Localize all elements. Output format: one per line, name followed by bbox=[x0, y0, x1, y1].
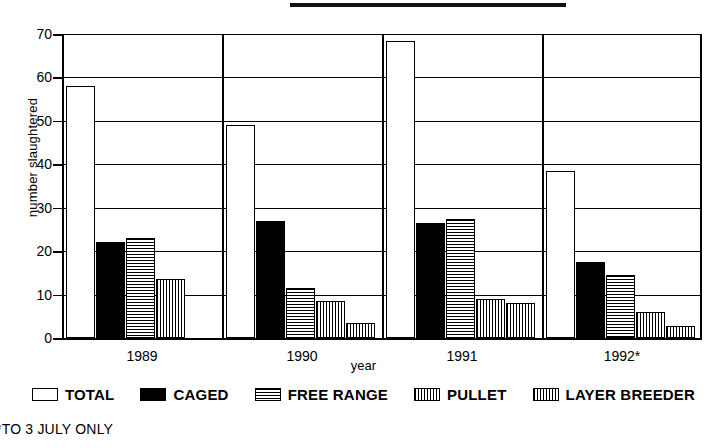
bar-layer-breeder-1992 bbox=[666, 326, 695, 338]
y-tick-label: 10 bbox=[6, 288, 52, 302]
legend-item-layer-breeder[interactable]: LAYER BREEDER bbox=[533, 386, 696, 403]
x-tick-label: 1990 bbox=[232, 348, 372, 364]
y-tick-mark bbox=[53, 34, 62, 36]
y-tick-label: 70 bbox=[6, 27, 52, 41]
group-separator bbox=[382, 34, 384, 340]
legend-item-free-range[interactable]: FREE RANGE bbox=[255, 386, 388, 403]
y-tick-label: 60 bbox=[6, 70, 52, 84]
bar-total-1992 bbox=[546, 171, 575, 338]
bar-caged-1990 bbox=[256, 221, 285, 338]
y-tick-mark bbox=[53, 77, 62, 79]
legend-label: CAGED bbox=[173, 386, 228, 403]
y-tick-label: 0 bbox=[6, 331, 52, 345]
legend-item-caged[interactable]: CAGED bbox=[140, 386, 228, 403]
y-tick-mark bbox=[53, 164, 62, 166]
legend-swatch-icon bbox=[140, 388, 166, 401]
bar-caged-1992 bbox=[576, 262, 605, 338]
legend-label: LAYER BREEDER bbox=[566, 386, 696, 403]
group-separator bbox=[222, 34, 224, 340]
bar-pullet-1992 bbox=[636, 312, 665, 338]
bar-caged-1989 bbox=[96, 242, 125, 338]
x-tick-label: 1991 bbox=[392, 348, 532, 364]
bar-layer-breeder-1990 bbox=[346, 323, 375, 338]
bar-free-range-1990 bbox=[286, 288, 315, 338]
y-tick-mark bbox=[53, 208, 62, 210]
legend-item-pullet[interactable]: PULLET bbox=[414, 386, 507, 403]
bar-pullet-1989 bbox=[156, 279, 185, 338]
legend-label: TOTAL bbox=[65, 386, 115, 403]
legend-swatch-icon bbox=[533, 388, 559, 401]
bar-pullet-1991 bbox=[476, 299, 505, 338]
bar-layer-breeder-1991 bbox=[506, 303, 535, 338]
footnote: *TO 3 JULY ONLY bbox=[0, 421, 113, 437]
x-tick-label: 1989 bbox=[72, 348, 212, 364]
legend-label: FREE RANGE bbox=[288, 386, 388, 403]
legend-label: PULLET bbox=[447, 386, 507, 403]
bar-free-range-1991 bbox=[446, 219, 475, 338]
x-tick-label: 1992* bbox=[552, 348, 692, 364]
y-tick-label: 20 bbox=[6, 244, 52, 258]
bar-total-1991 bbox=[386, 41, 415, 338]
bar-free-range-1992 bbox=[606, 275, 635, 338]
chart-root: number slaughtered 010203040506070 year … bbox=[0, 0, 727, 448]
group-separator bbox=[542, 34, 544, 340]
legend-swatch-icon bbox=[414, 388, 440, 401]
legend-item-total[interactable]: TOTAL bbox=[32, 386, 115, 403]
legend-swatch-icon bbox=[32, 388, 58, 401]
bar-pullet-1990 bbox=[316, 301, 345, 338]
title-underline bbox=[290, 3, 566, 7]
y-tick-label: 30 bbox=[6, 201, 52, 215]
legend-swatch-icon bbox=[255, 388, 281, 401]
y-tick-mark bbox=[53, 295, 62, 297]
y-tick-mark bbox=[53, 121, 62, 123]
chart-legend: TOTALCAGEDFREE RANGEPULLETLAYER BREEDER bbox=[0, 386, 727, 403]
bar-total-1989 bbox=[66, 86, 95, 338]
y-tick-label: 50 bbox=[6, 114, 52, 128]
bar-free-range-1989 bbox=[126, 238, 155, 338]
y-tick-mark bbox=[53, 251, 62, 253]
bar-total-1990 bbox=[226, 125, 255, 338]
y-tick-label: 40 bbox=[6, 157, 52, 171]
plot-area: 010203040506070 bbox=[62, 34, 702, 340]
y-tick-mark bbox=[53, 338, 62, 340]
bar-caged-1991 bbox=[416, 223, 445, 338]
